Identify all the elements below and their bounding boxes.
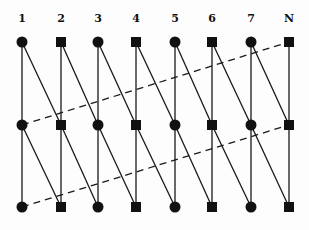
- circle-node-icon: [93, 37, 104, 48]
- diagram-canvas: 1234567N: [0, 0, 309, 230]
- square-node-icon: [207, 37, 217, 47]
- diagonal-edge: [61, 125, 98, 207]
- labels-layer: 1234567N: [18, 12, 294, 25]
- square-node-icon: [56, 37, 66, 47]
- column-label: 7: [247, 12, 255, 25]
- square-node-icon: [56, 202, 66, 212]
- circle-node-icon: [246, 120, 257, 131]
- circle-node-icon: [170, 202, 181, 213]
- column-label: 3: [94, 12, 102, 25]
- square-node-icon: [131, 120, 141, 130]
- circle-node-icon: [17, 37, 28, 48]
- diagonal-edge: [98, 125, 136, 207]
- diagonal-edge: [98, 42, 136, 125]
- diagonal-edge: [212, 125, 251, 207]
- circle-node-icon: [17, 202, 28, 213]
- square-node-icon: [131, 37, 141, 47]
- diagonal-edge: [212, 42, 251, 125]
- circle-node-icon: [93, 202, 104, 213]
- square-node-icon: [207, 202, 217, 212]
- circle-node-icon: [170, 120, 181, 131]
- square-node-icon: [56, 120, 66, 130]
- column-label: N: [284, 12, 294, 25]
- column-label: 2: [57, 12, 65, 25]
- circle-node-icon: [170, 37, 181, 48]
- diagonal-edge: [22, 42, 61, 125]
- square-node-icon: [284, 202, 294, 212]
- diagonal-edge: [251, 125, 289, 207]
- square-node-icon: [284, 37, 294, 47]
- diagonal-edge: [22, 125, 61, 207]
- column-label: 1: [18, 12, 26, 25]
- column-label: 4: [132, 12, 140, 25]
- diagonal-edge: [175, 42, 212, 125]
- circle-node-icon: [17, 120, 28, 131]
- diagonal-edge: [251, 42, 289, 125]
- diagonal-edge: [61, 42, 98, 125]
- circle-node-icon: [246, 37, 257, 48]
- diagonal-edge: [175, 125, 212, 207]
- nodes-layer: [17, 37, 295, 213]
- diagonal-edge: [136, 42, 175, 125]
- square-node-icon: [207, 120, 217, 130]
- diagonal-edge: [136, 125, 175, 207]
- circle-node-icon: [93, 120, 104, 131]
- square-node-icon: [284, 120, 294, 130]
- square-node-icon: [131, 202, 141, 212]
- column-label: 6: [208, 12, 216, 25]
- circle-node-icon: [246, 202, 257, 213]
- column-label: 5: [171, 12, 179, 25]
- lattice-diagram: 1234567N: [0, 0, 309, 230]
